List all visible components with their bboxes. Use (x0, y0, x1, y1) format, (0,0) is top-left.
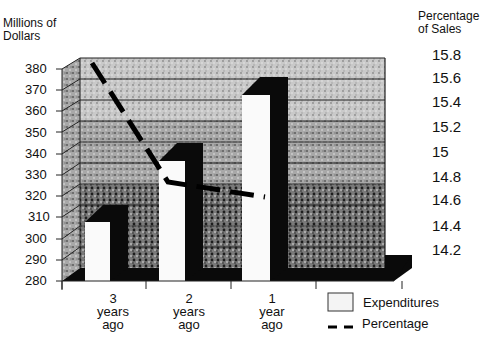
category-label-1-year-ago: 1 year ago (242, 292, 302, 331)
bar-2-years-ago (159, 143, 203, 281)
category-label-3-years-ago: 3 years ago (83, 292, 143, 331)
legend-expenditures-label: Expenditures (363, 295, 439, 310)
bar-3-years-ago (85, 205, 128, 281)
legend-percentage-label: Percentage (362, 316, 429, 331)
category-label-2-years-ago: 2 years ago (159, 292, 219, 331)
bar-1-year-ago (242, 77, 288, 281)
legend-expenditures-swatch (328, 293, 353, 311)
side-wall (62, 58, 80, 281)
